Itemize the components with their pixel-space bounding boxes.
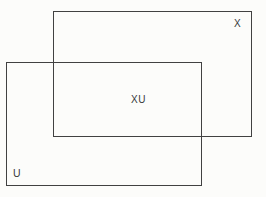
set-diagram-canvas: X XU U <box>0 0 266 197</box>
intersection-label: XU <box>131 95 146 105</box>
set-x-label: X <box>234 19 241 29</box>
set-u-label: U <box>13 168 21 178</box>
set-u-rectangle <box>6 62 202 186</box>
